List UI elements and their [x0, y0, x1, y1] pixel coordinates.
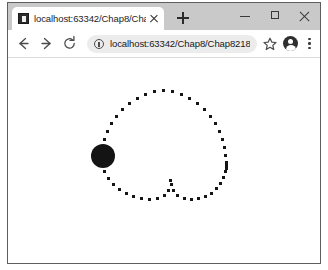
heart-path-dot — [224, 154, 227, 157]
intellij-favicon — [18, 13, 29, 24]
heart-path-dot — [140, 197, 143, 200]
browser-window: localhost:63342/Chap8/Chap8 — [7, 2, 321, 264]
back-arrow-icon[interactable] — [13, 33, 34, 54]
reload-icon[interactable] — [59, 33, 80, 54]
heart-path-dot — [218, 130, 221, 133]
heart-path-dot — [163, 194, 166, 197]
page-viewport — [8, 58, 320, 263]
heart-path-dot — [204, 195, 207, 198]
heart-path-dot — [128, 102, 131, 105]
heart-path-dot — [115, 115, 118, 118]
address-bar[interactable]: localhost:63342/Chap8/Chap8218.h... — [87, 35, 257, 53]
heart-path-dot — [103, 170, 106, 173]
new-tab-icon[interactable] — [173, 8, 193, 28]
heart-path-dot — [197, 197, 200, 200]
heart-path-dot — [203, 108, 206, 111]
heart-path-dot — [132, 195, 135, 198]
heart-path-dot — [169, 179, 172, 182]
heart-path-dot — [221, 138, 224, 141]
heart-path-dot — [171, 90, 174, 93]
heart-path-dot — [144, 93, 147, 96]
tab-title: localhost:63342/Chap8/Chap8 — [34, 13, 146, 24]
three-dot-menu-icon[interactable] — [302, 34, 316, 54]
heart-path-dot — [224, 170, 227, 173]
heart-path-dot — [118, 188, 121, 191]
heart-path-dot — [196, 102, 199, 105]
heart-path-dot — [156, 197, 159, 200]
heart-path-dot — [136, 97, 139, 100]
maximize-icon[interactable] — [260, 3, 290, 30]
heart-animation-canvas[interactable] — [8, 58, 320, 263]
heart-path-dot — [167, 189, 170, 192]
site-info-icon[interactable] — [94, 39, 104, 49]
heart-path-dot — [162, 89, 165, 92]
heart-path-dot — [112, 183, 115, 186]
browser-toolbar: localhost:63342/Chap8/Chap8218.h... — [8, 30, 320, 58]
window-controls — [230, 3, 320, 30]
heart-path-dot — [170, 183, 173, 186]
heart-path-dot — [153, 90, 156, 93]
heart-path-dot — [125, 192, 128, 195]
ball-marker — [91, 144, 115, 168]
heart-path-dot — [107, 177, 110, 180]
avatar[interactable] — [283, 36, 298, 51]
heart-path-dot — [183, 197, 186, 200]
minimize-icon[interactable] — [230, 3, 260, 30]
heart-path-dot — [103, 138, 106, 141]
heart-path-dot — [110, 122, 113, 125]
heart-path-dot — [209, 115, 212, 118]
heart-path-dot — [222, 176, 225, 179]
window-close-icon[interactable] — [290, 3, 320, 30]
heart-path-dot — [219, 182, 222, 185]
tab-strip: localhost:63342/Chap8/Chap8 — [8, 3, 320, 30]
heart-path-dot — [106, 130, 109, 133]
forward-arrow-icon[interactable] — [36, 33, 57, 54]
star-icon[interactable] — [261, 35, 279, 53]
url-text: localhost:63342/Chap8/Chap8218.h... — [110, 38, 250, 49]
heart-path-dot — [190, 198, 193, 201]
heart-path-dot — [176, 194, 179, 197]
heart-path-dot — [188, 97, 191, 100]
heart-path-dot — [180, 93, 183, 96]
heart-path-dot — [215, 187, 218, 190]
heart-path-dot — [223, 146, 226, 149]
heart-path-dot — [214, 122, 217, 125]
heart-path-dot — [148, 198, 151, 201]
close-icon[interactable] — [148, 13, 160, 25]
heart-path-dot — [172, 189, 175, 192]
heart-path-dot — [210, 192, 213, 195]
heart-path-dot — [121, 108, 124, 111]
browser-tab[interactable]: localhost:63342/Chap8/Chap8 — [12, 7, 164, 30]
